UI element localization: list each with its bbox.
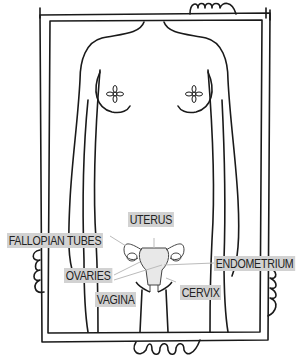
frame-outer [40, 13, 270, 342]
arm-left [83, 100, 88, 332]
frame-inner [48, 20, 262, 333]
label-vagina: VAGINA [95, 292, 136, 307]
leg-left [140, 290, 142, 332]
arm-right [222, 100, 228, 332]
frame-curl-right [268, 268, 276, 316]
leg-right [166, 290, 168, 332]
label-uterus: UTERUS [128, 212, 174, 227]
body-right-outline [164, 22, 239, 276]
flower-right-icon [186, 86, 203, 103]
label-fallopian-tubes: FALLOPIAN TUBES [7, 233, 103, 248]
label-ovaries: OVARIES [64, 268, 112, 283]
illustration-canvas [0, 0, 308, 359]
label-endometrium: ENDOMETRIUM [214, 256, 295, 271]
label-cervix: CERVIX [180, 285, 221, 300]
frame-curl-bottom [134, 340, 200, 354]
flower-left-icon [107, 86, 124, 103]
frame-curl-top [190, 3, 236, 14]
